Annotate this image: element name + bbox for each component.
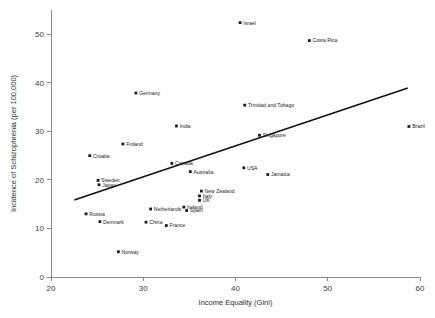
data-point-marker (266, 173, 269, 176)
data-point-label: Singapore (263, 132, 286, 138)
data-point-marker (258, 134, 261, 137)
data-point-marker (85, 212, 88, 215)
data-point-marker (408, 125, 411, 128)
data-point-marker (98, 183, 101, 186)
data-point-marker (198, 199, 201, 202)
chart-canvas: 01020304050 2030405060 IsraelCosta RicaG… (0, 0, 435, 318)
data-point-marker (175, 125, 178, 128)
data-point-label: Netherlands (154, 206, 182, 212)
data-point-marker (122, 143, 125, 146)
data-points: IsraelCosta RicaGermanyTrinidad and Toba… (85, 20, 425, 255)
data-point-label: Costa Rica (313, 37, 338, 43)
data-point-label: UK (203, 197, 211, 203)
x-tick-label: 40 (231, 284, 240, 293)
data-point-label: India (180, 123, 191, 129)
data-point-label: Spain (190, 207, 203, 213)
x-axis-title: Income Equality (Gini) (199, 298, 273, 307)
x-tick-label: 50 (323, 284, 332, 293)
x-tick-label: 60 (416, 284, 425, 293)
y-tick-label: 30 (35, 127, 44, 136)
data-point-label: Finland (126, 141, 143, 147)
data-point-marker (134, 92, 137, 95)
y-tick-label: 50 (35, 30, 44, 39)
data-point-label: USA (247, 165, 258, 171)
axes (51, 10, 420, 277)
data-point-label: Israel (243, 20, 255, 26)
y-tick-label: 40 (35, 79, 44, 88)
data-point-marker (165, 224, 168, 227)
data-point-marker (239, 21, 242, 24)
data-point-marker (97, 179, 100, 182)
x-tick-label: 20 (47, 284, 56, 293)
y-axis-ticks: 01020304050 (35, 30, 51, 282)
data-point-marker (88, 154, 91, 157)
data-point-label: Norway (122, 249, 140, 255)
data-point-label: China (149, 219, 162, 225)
data-point-label: Canada (175, 160, 193, 166)
data-point-marker (189, 170, 192, 173)
data-point-label: Russia (89, 211, 105, 217)
data-point-label: Jamaica (271, 171, 290, 177)
data-point-label: Germany (139, 90, 160, 96)
data-point-label: Trinidad and Tobago (248, 102, 294, 108)
trend-line (75, 88, 407, 200)
data-point-label: Japan (102, 182, 116, 188)
data-point-label: France (170, 222, 186, 228)
y-axis-title: Incidence of Schizophrenia (per 100,000) (9, 74, 18, 212)
data-point-marker (145, 221, 148, 224)
data-point-marker (198, 195, 201, 198)
x-tick-label: 30 (139, 284, 148, 293)
data-point-label: Australia (193, 169, 213, 175)
data-point-label: Denmark (103, 219, 124, 225)
data-point-marker (170, 162, 173, 165)
data-point-label: Brazil (412, 123, 425, 129)
scatter-plot-figure: 01020304050 2030405060 IsraelCosta RicaG… (0, 0, 435, 318)
x-axis-ticks: 2030405060 (47, 277, 425, 293)
data-point-marker (117, 250, 120, 253)
data-point-label: Croatia (93, 153, 110, 159)
data-point-marker (243, 104, 246, 107)
y-tick-label: 20 (35, 176, 44, 185)
y-tick-label: 0 (40, 273, 45, 282)
y-tick-label: 10 (35, 224, 44, 233)
trend-line-segment (75, 88, 407, 200)
data-point-marker (185, 209, 188, 212)
data-point-marker (98, 220, 101, 223)
data-point-marker (308, 39, 311, 42)
data-point-marker (242, 166, 245, 169)
data-point-marker (182, 206, 185, 209)
data-point-marker (149, 208, 152, 211)
